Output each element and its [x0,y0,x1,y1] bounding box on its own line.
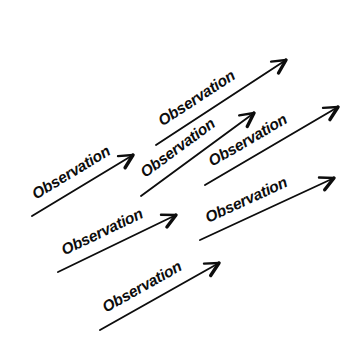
observation-arrow: Observation [99,257,219,330]
arrow-head-stroke [204,263,219,264]
arrow-head-stroke [118,155,133,156]
observation-arrow: Observation [29,142,133,216]
observation-arrow: Observation [205,107,338,185]
observation-arrows-diagram: ObservationObservationObservationObserva… [0,0,346,359]
observation-arrow: Observation [58,205,176,272]
arrow-head-stroke [319,177,334,178]
diagram-canvas: ObservationObservationObservationObserva… [0,0,346,359]
arrow-head-stroke [323,107,338,108]
arrow-head-stroke [271,60,286,62]
observation-arrow: Observation [200,173,334,240]
